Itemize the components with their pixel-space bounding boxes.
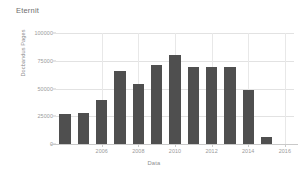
y-axis-tick-label: 100000 [34, 30, 53, 36]
y-axis-tick-labels: 0250005000075000100000 [0, 0, 53, 180]
x-axis-tick-mark [138, 144, 139, 147]
y-axis-tick-mark [53, 144, 56, 145]
bar[interactable] [206, 67, 217, 144]
x-axis-tick-label: 2012 [205, 148, 217, 154]
bar[interactable] [114, 71, 125, 144]
x-axis-line [50, 144, 298, 145]
x-axis-tick-label: 2010 [169, 148, 181, 154]
x-axis-tick-mark [175, 144, 176, 147]
bar[interactable] [224, 67, 235, 144]
y-axis-tick-mark [53, 88, 56, 89]
bar[interactable] [78, 113, 89, 144]
x-axis-tick-label: 2006 [96, 148, 108, 154]
y-axis-tick-mark [53, 60, 56, 61]
y-axis-tick-label: 75000 [38, 58, 54, 64]
x-axis-tick-mark [212, 144, 213, 147]
chart-figure: Eternit Docbandus Pages 0250005000075000… [0, 0, 308, 180]
x-axis-tick-label: 2008 [132, 148, 144, 154]
x-axis-tick-label: 2014 [242, 148, 254, 154]
y-axis-tick-label: 50000 [38, 86, 54, 92]
bar[interactable] [151, 65, 162, 144]
bar[interactable] [96, 100, 107, 144]
bar[interactable] [59, 114, 70, 144]
x-axis-tick-mark [102, 144, 103, 147]
x-axis-tick-mark [248, 144, 249, 147]
bar[interactable] [188, 67, 199, 144]
bar-series [56, 33, 294, 144]
bar[interactable] [169, 55, 180, 144]
y-axis-tick-mark [53, 33, 56, 34]
bar[interactable] [261, 137, 272, 144]
x-axis-label: Data [0, 160, 308, 166]
y-axis-tick-label: 25000 [38, 113, 54, 119]
y-axis-tick-mark [53, 116, 56, 117]
bar[interactable] [133, 84, 144, 144]
x-axis-tick-mark [285, 144, 286, 147]
bar[interactable] [243, 90, 254, 144]
x-axis-tick-label: 2016 [279, 148, 291, 154]
